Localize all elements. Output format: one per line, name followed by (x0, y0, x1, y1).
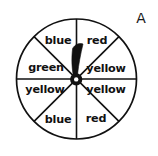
figure-label-a: A (136, 10, 146, 26)
spinner-figure: red yellow yellow red blue yellow green … (0, 0, 158, 156)
sector-label-red-upper-right: red (87, 34, 108, 47)
sector-label-yellow-left-lower: yellow (25, 83, 64, 96)
spinner-wheel-diagram: red yellow yellow red blue yellow green … (0, 0, 158, 156)
sector-label-red-lower-right: red (86, 112, 107, 125)
sector-label-blue-upper-left: blue (45, 34, 72, 47)
sector-label-yellow-right-lower: yellow (86, 83, 125, 96)
sector-label-yellow-right-upper: yellow (86, 62, 125, 75)
needle-hub-center (74, 77, 78, 81)
sector-label-green-left-upper: green (28, 61, 64, 74)
sector-label-blue-lower-left: blue (45, 113, 72, 126)
